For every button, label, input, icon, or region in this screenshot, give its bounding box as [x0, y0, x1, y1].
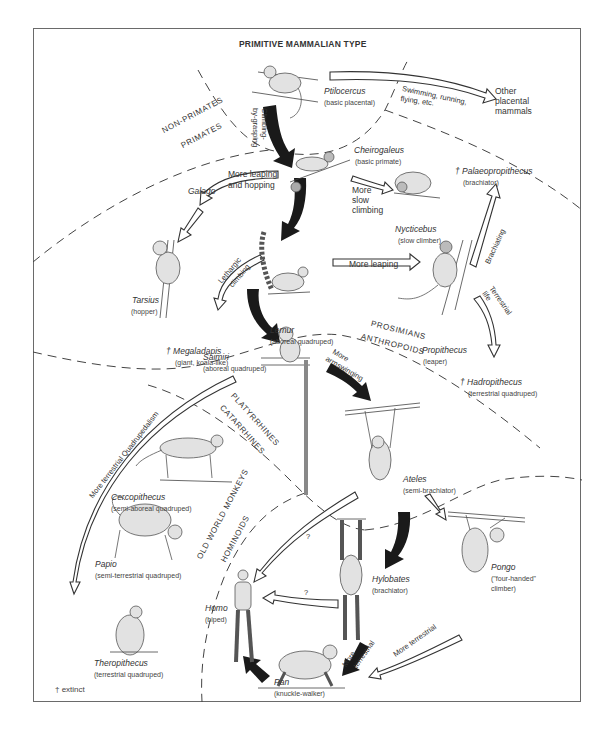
more-leaping-label: More leaping	[349, 260, 398, 269]
galago-name: Galago	[188, 187, 215, 196]
hylobates-figure	[337, 519, 366, 640]
cheirogaleus-desc: (basic primate)	[355, 158, 401, 166]
lemur-desc: (aboreal quadruped)	[270, 338, 333, 346]
pongo-name: Pongo	[491, 563, 516, 572]
diagram-title: PRIMITIVE MAMMALIAN TYPE	[239, 40, 367, 49]
nycticebus-name: Nycticebus	[395, 225, 437, 234]
hylobates-desc: (brachiator)	[372, 587, 408, 595]
tarsius-name: Tarsius	[132, 296, 159, 305]
cheirogaleus-name: Cheirogaleus	[354, 146, 404, 155]
theropithecus-figure	[110, 606, 158, 655]
propithecus-figure	[398, 240, 472, 315]
terrestrial-life-arrow	[474, 296, 500, 357]
pan-homo-arrow	[243, 656, 270, 683]
propithecus-name: Propithecus	[422, 346, 467, 355]
saimiri-desc: (aboreal quadruped)	[203, 365, 266, 373]
leaping-hopping-label-line1: More leaping	[228, 170, 277, 179]
leaping-hopping-label-line2: and hopping	[228, 181, 275, 190]
homo-name: Homo	[205, 604, 228, 613]
ateles-hylobates-arrow	[385, 512, 410, 569]
ptilocercus-desc: (basic placental)	[324, 99, 375, 107]
tarsius-desc: (hopper)	[131, 308, 157, 316]
ateles-figure	[345, 403, 420, 480]
slow-climbing-label-line1: More	[352, 186, 371, 195]
cercopithecus-figure	[136, 435, 232, 482]
propithecus-desc: (leaper)	[423, 358, 447, 366]
extinct-footnote: † extinct	[55, 686, 85, 695]
palaeopropithecus-name: † Palaeopropithecus	[455, 167, 533, 176]
hylobates-homo-arrow	[263, 591, 338, 608]
slow-climbing-label-line2: slow	[352, 196, 369, 205]
hylobates-name: Hylobates	[372, 575, 410, 584]
pan-figure	[258, 645, 345, 688]
theropithecus-name: Theropithecus	[94, 659, 148, 668]
nycticebus-desc: (slow climber)	[398, 237, 441, 245]
cercopithecus-name: Cercopithecus	[111, 493, 165, 502]
question-label-2: ?	[304, 589, 308, 597]
saimiri-name: Saimiri	[203, 353, 229, 362]
ptilocercus-name: Ptilocercus	[324, 87, 366, 96]
papio-name: Papio	[95, 560, 117, 569]
other-placentals-line3: mammals	[495, 107, 532, 116]
ateles-pongo-arrow	[425, 494, 446, 520]
palaeopropithecus-desc: (brachiator)	[463, 179, 499, 187]
hadropithecus-desc: (terrestrial quadruped)	[468, 390, 537, 398]
climbing-label-line2: by-grasping	[251, 108, 259, 147]
other-placentals-line1: Other	[495, 87, 516, 96]
slow-climbing-label-line3: climbing	[352, 206, 383, 215]
saimiri-figure	[261, 327, 310, 495]
other-placentals-line2: placental	[495, 97, 529, 106]
primates-boundary-left	[33, 150, 270, 262]
pan-desc: (knuckle-walker)	[274, 690, 325, 698]
pongo-desc-line1: ("four-handed"	[491, 575, 536, 583]
lemur-name: Lemur	[270, 326, 294, 335]
nycticebus-figure	[394, 172, 440, 198]
pan-name: Pan	[274, 678, 289, 687]
papio-desc: (semi-terrestrial quadruped)	[95, 572, 181, 580]
galago-tarsius-arrow	[178, 208, 203, 242]
homo-desc: (biped)	[205, 616, 227, 624]
theropithecus-desc: (terrestrial quadruped)	[94, 671, 163, 679]
lemur-figure	[262, 232, 310, 294]
ateles-desc: (semi-brachiator)	[403, 487, 456, 495]
hadropithecus-name: † Hadropithecus	[460, 378, 522, 387]
cheirogaleus-figure	[290, 152, 350, 192]
ateles-name: Ateles	[403, 475, 427, 484]
climbing-label-line1: Climbing-	[260, 108, 268, 140]
hominoid-boundary-right	[365, 476, 582, 530]
homo-figure	[235, 570, 252, 662]
tarsius-figure	[153, 240, 180, 318]
question-label-1: ?	[306, 533, 310, 541]
cercopithecus-desc: (semi-aboreal quadruped)	[111, 505, 192, 513]
pongo-desc-line2: climber)	[491, 585, 516, 593]
